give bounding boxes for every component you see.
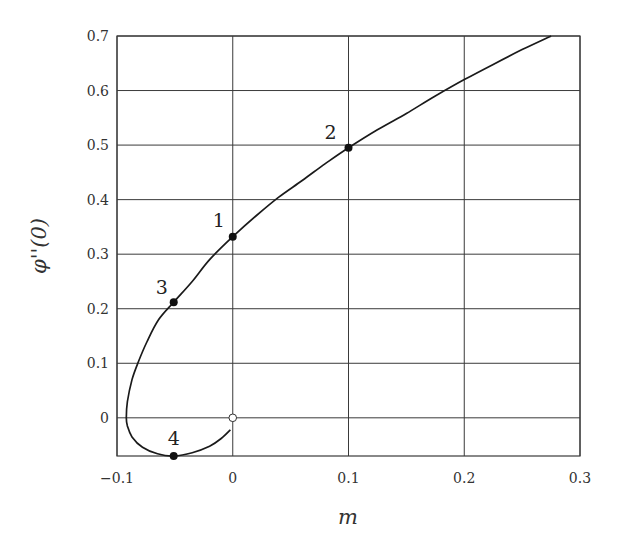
x-axis-ticks: −0.100.10.20.3 (100, 470, 591, 486)
x-axis-label: m (338, 505, 358, 529)
y-tick-label: 0.2 (87, 301, 109, 317)
point-marker-1 (229, 233, 237, 241)
point-label-4: 4 (168, 427, 180, 449)
y-tick-label: 0.7 (87, 28, 109, 44)
y-tick-label: 0.6 (87, 83, 109, 99)
y-tick-label: 0 (100, 410, 109, 426)
point-marker-3 (170, 298, 178, 306)
point-marker-2 (345, 144, 353, 152)
point-marker-4 (170, 452, 178, 460)
x-tick-label: 0.1 (337, 470, 359, 486)
open-point-marker (229, 414, 237, 422)
x-tick-label: 0.3 (569, 470, 591, 486)
chart: 1234 −0.100.10.20.3 00.10.20.30.40.50.60… (0, 0, 621, 548)
point-label-3: 3 (156, 276, 168, 298)
data-curve (126, 36, 551, 456)
point-label-1: 1 (213, 209, 225, 231)
x-tick-label: 0.2 (453, 470, 475, 486)
grid-lines (117, 36, 580, 456)
y-tick-label: 0.4 (87, 192, 109, 208)
y-axis-ticks: 00.10.20.30.40.50.60.7 (87, 28, 109, 426)
x-tick-label: −0.1 (100, 470, 134, 486)
y-tick-label: 0.5 (87, 137, 109, 153)
y-axis-label: φ''(0) (27, 218, 51, 274)
point-label-2: 2 (324, 121, 336, 143)
x-tick-label: 0 (228, 470, 237, 486)
y-tick-label: 0.3 (87, 246, 109, 262)
y-tick-label: 0.1 (87, 355, 109, 371)
